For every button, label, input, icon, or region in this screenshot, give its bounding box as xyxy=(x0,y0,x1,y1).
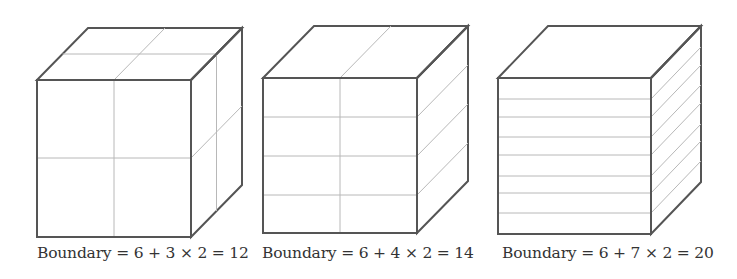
right-cut-line xyxy=(417,143,468,195)
cube-3-cuts xyxy=(37,28,242,237)
cube-7-cuts xyxy=(498,26,701,234)
top-right-diagonal-edge xyxy=(417,26,468,78)
caption-cube-4-cuts: Boundary = 6 + 4 × 2 = 14 xyxy=(262,244,474,262)
right-cut-line xyxy=(417,104,468,156)
top-right-diagonal-edge xyxy=(651,26,701,78)
top-face xyxy=(498,26,701,78)
caption-cube-7-cuts: Boundary = 6 + 7 × 2 = 20 xyxy=(502,244,714,262)
cubes-drawing xyxy=(0,0,737,279)
cube-4-cuts xyxy=(263,26,468,233)
caption-cube-3-cuts: Boundary = 6 + 3 × 2 = 12 xyxy=(37,244,249,262)
front-face xyxy=(498,78,651,234)
right-face xyxy=(651,26,701,234)
right-cut-line xyxy=(651,141,701,193)
top-cut-line xyxy=(340,26,391,78)
right-cut-line xyxy=(417,65,468,117)
cube-boundary-figure: Boundary = 6 + 3 × 2 = 12 Boundary = 6 +… xyxy=(0,0,737,279)
